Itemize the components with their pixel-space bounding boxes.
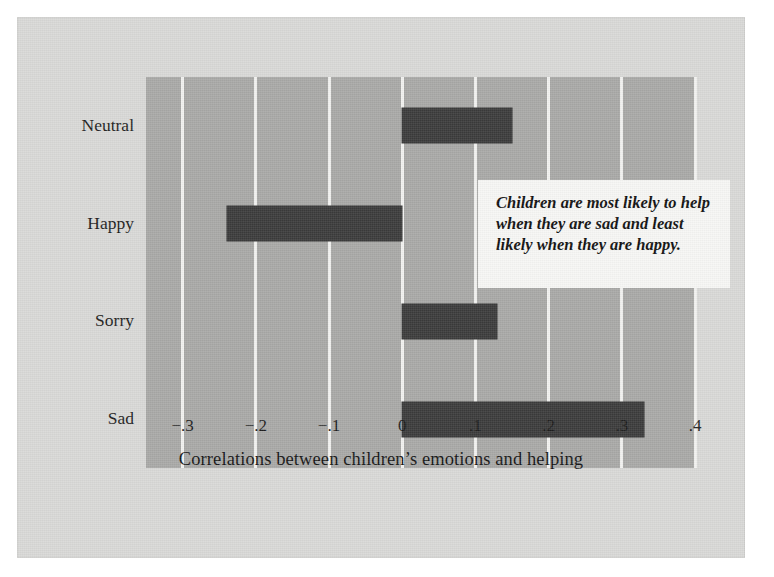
category-axis-labels: NeutralHappySorrySad <box>17 77 134 468</box>
tick-label-0p2: .2 <box>542 417 555 434</box>
gridline-neg0p1 <box>328 77 331 468</box>
bar-sorry <box>402 304 497 339</box>
category-label-neutral: Neutral <box>82 117 134 135</box>
x-axis-title: Correlations between children’s emotions… <box>17 449 745 470</box>
annotation-text: Children are most likely to help when th… <box>496 192 716 255</box>
tick-label-0p4: .4 <box>689 417 702 434</box>
category-label-happy: Happy <box>87 215 134 233</box>
tick-label-0p3: .3 <box>615 417 628 434</box>
gridline-neg0p3 <box>181 77 184 468</box>
bar-neutral <box>402 108 512 143</box>
x-axis-tick-labels: −.3−.2−.10.1.2.3.4 <box>146 417 695 443</box>
gridline-neg0p2 <box>254 77 257 468</box>
annotation-callout: Children are most likely to help when th… <box>478 180 730 288</box>
category-label-sad: Sad <box>108 410 134 428</box>
category-label-sorry: Sorry <box>95 312 134 330</box>
tick-label-0p1: .1 <box>469 417 482 434</box>
tick-label-neg0p1: −.1 <box>318 417 340 434</box>
bar-happy <box>227 206 403 241</box>
tick-label-neg0p3: −.3 <box>171 417 193 434</box>
figure-panel: NeutralHappySorrySad −.3−.2−.10.1.2.3.4 … <box>17 17 745 558</box>
tick-label-0: 0 <box>398 417 407 434</box>
tick-label-neg0p2: −.2 <box>245 417 267 434</box>
